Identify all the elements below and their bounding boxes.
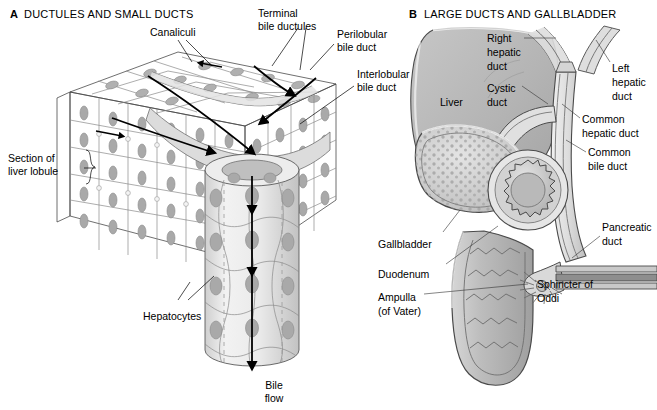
leader-gallbladder [443, 210, 460, 232]
label-interlobular-bile-duct-line2: bile duct [357, 81, 396, 93]
leader-perilobular [310, 44, 334, 70]
label-hepatocytes: Hepatocytes [143, 310, 201, 322]
label-perilobular-bile-duct-line1: Perilobular [337, 28, 388, 40]
leader-terminal-ductules-2 [300, 28, 306, 70]
label-right-hepatic-duct-line3: duct [487, 60, 507, 72]
label-common-hepatic-duct-line2: hepatic duct [582, 127, 639, 139]
panel-a: A DUCTULES AND SMALL DUCTS [8, 7, 410, 404]
label-section-of-liver-lobule-line1: Section of [8, 152, 55, 164]
label-pancreatic-duct-line2: duct [602, 235, 622, 247]
label-common-hepatic-duct-line1: Common [582, 113, 625, 125]
leader-hepatocytes-1 [178, 282, 190, 300]
leader-canaliculi-1 [178, 40, 192, 62]
panel-b-title: LARGE DUCTS AND GALLBLADDER [424, 8, 616, 20]
label-ampulla-line2: (of Vater) [378, 305, 421, 317]
label-canaliculi: Canaliculi [150, 26, 196, 38]
label-left-hepatic-duct-line3: duct [612, 90, 632, 102]
label-terminal-bile-ductules-line1: Terminal [258, 7, 298, 19]
label-terminal-bile-ductules-line2: bile ductules [258, 20, 316, 32]
label-cystic-duct-line2: duct [487, 96, 507, 108]
label-pancreatic-duct-line1: Pancreatic [602, 221, 652, 233]
label-common-bile-duct-line2: bile duct [588, 160, 627, 172]
label-interlobular-bile-duct-line1: Interlobular [357, 68, 410, 80]
duodenum-shape [452, 231, 533, 385]
figure-canvas: A DUCTULES AND SMALL DUCTS [0, 0, 657, 410]
panel-a-title: DUCTULES AND SMALL DUCTS [24, 8, 193, 20]
label-bile-flow-line1: Bile [265, 379, 283, 391]
biliary-system-figure: A DUCTULES AND SMALL DUCTS [0, 0, 657, 410]
label-liver: Liver [440, 96, 463, 108]
label-common-bile-duct-line1: Common [588, 146, 631, 158]
label-left-hepatic-duct-line2: hepatic [612, 76, 646, 88]
label-sphincter-of-oddi-line1: Sphincter of [537, 278, 593, 290]
lobule-left-edge [57, 92, 70, 222]
label-bile-flow-line2: flow [265, 392, 284, 404]
panel-b-letter: B [409, 8, 417, 20]
label-right-hepatic-duct-line1: Right [487, 32, 512, 44]
label-ampulla-line1: Ampulla [378, 291, 416, 303]
label-section-of-liver-lobule-line2: liver lobule [8, 165, 58, 177]
label-duodenum: Duodenum [378, 268, 430, 280]
label-left-hepatic-duct-line1: Left [612, 62, 630, 74]
arrow-flow-right-2 [254, 66, 292, 94]
panel-a-letter: A [10, 8, 18, 20]
leader-terminal-ductules-1 [272, 28, 298, 66]
label-cystic-duct-line1: Cystic [487, 82, 516, 94]
duodenum-cross-section [488, 150, 568, 230]
label-gallbladder: Gallbladder [378, 238, 432, 250]
duodenum-lumen [511, 173, 545, 207]
label-perilobular-bile-duct-line2: bile duct [337, 41, 376, 53]
label-sphincter-of-oddi-line2: Oddi [537, 292, 559, 304]
panel-b: B LARGE DUCTS AND GALLBLADDER [378, 8, 657, 385]
label-right-hepatic-duct-line2: hepatic [487, 46, 521, 58]
